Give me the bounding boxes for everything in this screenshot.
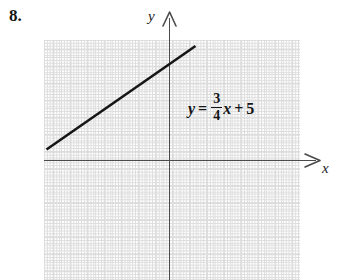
equation-fraction: 3 4 xyxy=(211,92,222,123)
equation-plus-sign: + xyxy=(234,100,243,118)
coordinate-graph: y x xyxy=(0,0,342,280)
equation-constant: 5 xyxy=(246,100,254,118)
equation-variable: x xyxy=(223,100,231,118)
equation-label: y = 3 4 x + 5 xyxy=(188,93,254,124)
equation-equals-sign: = xyxy=(198,100,207,118)
equation-lhs: y xyxy=(188,100,195,118)
worksheet-problem-figure: 8. y x y = 3 4 x + 5 xyxy=(0,0,342,280)
plotted-line xyxy=(0,0,342,280)
fraction-denominator: 4 xyxy=(212,108,221,123)
fraction-numerator: 3 xyxy=(212,92,221,107)
